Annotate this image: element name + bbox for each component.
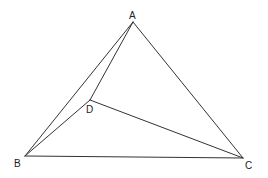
labels-group: A B C D [14,10,252,171]
vertex-label-a: A [129,10,136,21]
vertex-label-b: B [14,158,21,169]
vertex-label-d: D [86,104,93,115]
segment-bc [25,156,243,158]
segment-bd [25,100,90,156]
segment-ad [90,22,133,100]
edges-group [25,22,243,158]
vertex-label-c: C [245,160,252,171]
geometry-diagram: A B C D [0,0,268,178]
segment-ab [25,22,133,156]
